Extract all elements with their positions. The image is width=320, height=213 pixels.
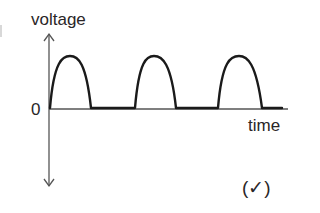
check-mark-annotation: (✓) — [242, 178, 271, 197]
y-axis — [44, 34, 54, 186]
origin-label: 0 — [31, 101, 40, 118]
rectified-waveform — [50, 56, 282, 108]
y-axis-label: voltage — [31, 11, 86, 28]
x-axis-label: time — [248, 117, 280, 134]
